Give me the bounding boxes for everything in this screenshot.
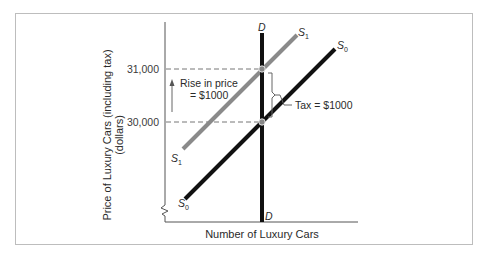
- s1-label-bottom: S: [171, 152, 178, 164]
- y-axis-label: Price of Luxury Cars (including tax): [101, 49, 113, 220]
- demand-label-top: D: [258, 21, 266, 33]
- tick-label-30000: 30,000: [127, 116, 159, 128]
- tax-label: Tax = $1000: [295, 99, 353, 111]
- s1-label-bottom-sub: 1: [178, 159, 182, 166]
- rise-in-price-label: Rise in price: [180, 77, 238, 89]
- arrow-up-icon: [170, 79, 175, 86]
- equilibrium-point-s0: [259, 119, 265, 125]
- supply-demand-chart: 31,000 30,000 Price of Luxury Cars (incl…: [0, 0, 488, 260]
- s0-label-top-sub: 0: [344, 46, 348, 53]
- s1-label-top-sub: 1: [305, 33, 309, 40]
- s0-label-bottom-sub: 0: [185, 204, 189, 211]
- rise-in-price-value: = $1000: [190, 89, 228, 101]
- x-axis-label: Number of Luxury Cars: [205, 228, 319, 240]
- s0-label-top: S: [337, 39, 344, 51]
- demand-label-bottom: D: [265, 210, 273, 222]
- tick-label-31000: 31,000: [127, 63, 159, 75]
- s0-label-bottom: S: [178, 197, 185, 209]
- equilibrium-point-s1: [259, 66, 265, 72]
- s1-label-top: S: [298, 26, 305, 38]
- axis-break-icon: [161, 205, 168, 222]
- y-axis-unit-label: (dollars): [113, 115, 125, 155]
